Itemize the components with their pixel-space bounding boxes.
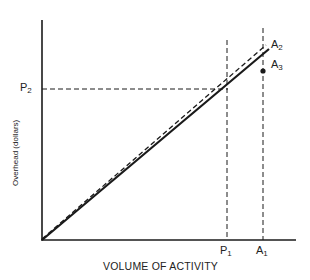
p1-label: P1 (220, 244, 232, 258)
applied-dashed-line (42, 45, 266, 239)
y-axis-title: Overhead (dollars) (11, 120, 20, 186)
a3-label: A3 (271, 58, 283, 72)
a1-label: A1 (256, 244, 268, 258)
a2-label: A2 (271, 38, 283, 52)
chart-canvas (0, 0, 310, 280)
p2-label: P2 (20, 81, 32, 95)
a3-point (260, 68, 265, 73)
x-axis-title: VOLUME OF ACTIVITY (103, 260, 218, 272)
a2-label-sub: 2 (278, 43, 282, 52)
p2-label-sub: 2 (27, 86, 31, 95)
a3-label-sub: 3 (278, 63, 282, 72)
p1-label-sub: 1 (227, 249, 231, 258)
budgeted-solid-line (42, 49, 269, 240)
a1-label-sub: 1 (263, 249, 267, 258)
